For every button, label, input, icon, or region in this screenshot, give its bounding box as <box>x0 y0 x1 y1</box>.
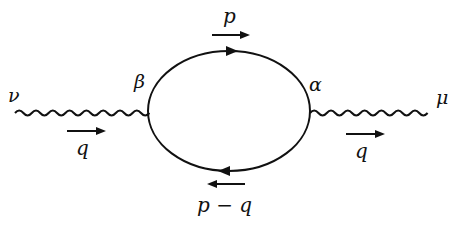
left-external-momentum-arrow-icon <box>67 127 106 135</box>
label-mu: μ <box>436 86 448 108</box>
feynman-diagram: ν μ β α p p − q q q <box>0 0 467 233</box>
label-top-momentum: p <box>223 4 236 28</box>
loop-bottom-arrow-icon <box>218 166 230 176</box>
label-left-q: q <box>76 136 89 160</box>
label-beta: β <box>133 70 145 92</box>
label-right-q: q <box>355 139 368 163</box>
left-photon-line <box>15 111 149 116</box>
right-photon-line <box>310 111 428 116</box>
top-momentum-arrow-icon <box>212 31 250 39</box>
fermion-loop <box>148 51 310 171</box>
label-nu: ν <box>8 84 20 106</box>
label-alpha: α <box>309 73 322 95</box>
bottom-momentum-arrow-icon <box>207 180 245 188</box>
label-bottom-momentum: p − q <box>197 193 252 217</box>
right-external-momentum-arrow-icon <box>346 130 385 138</box>
loop-top-arrow-icon <box>226 46 238 56</box>
